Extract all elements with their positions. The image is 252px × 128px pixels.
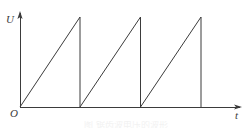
sawtooth-waveform-trace (20, 17, 201, 107)
origin-label: O (10, 108, 18, 119)
waveform-plot-area (0, 0, 252, 128)
sawtooth-waveform-figure: U O t 图 锯齿波电压的波形 (0, 0, 252, 128)
y-axis-label: U (6, 14, 14, 25)
x-axis-label: t (235, 110, 238, 121)
cropped-caption-text: 图 锯齿波电压的波形 (0, 121, 252, 128)
